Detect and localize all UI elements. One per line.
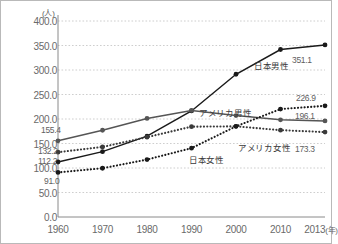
data-point-marker [323, 43, 328, 48]
data-point-marker [323, 130, 328, 135]
data-point-marker [234, 124, 239, 129]
data-point-marker [145, 157, 150, 162]
data-point-marker [100, 166, 105, 171]
value-label-america-male-start: 155.4 [41, 125, 61, 135]
value-label-japan-male-end: 351.1 [292, 55, 312, 65]
value-label-japan-male-start: 112.2 [38, 156, 57, 166]
value-label-america-male-end: 196.1 [295, 111, 315, 121]
data-point-marker [189, 108, 194, 113]
data-point-marker [189, 124, 194, 129]
data-point-marker [278, 128, 283, 133]
value-label-america-female-start: 132.2 [38, 146, 58, 156]
data-point-marker [145, 116, 150, 121]
series-label-japan-female: 日本女性 [189, 153, 224, 165]
value-label-japan-female-end: 226.9 [296, 93, 316, 103]
data-point-marker [100, 145, 105, 150]
value-label-japan-female-start: 91.0 [44, 176, 59, 186]
series-label-japan-male: 日本男性 [254, 59, 289, 71]
data-point-marker [189, 146, 194, 151]
data-point-marker [278, 117, 283, 122]
data-point-marker [145, 135, 150, 140]
value-label-america-female-end: 173.3 [295, 144, 315, 154]
data-point-marker [56, 170, 61, 175]
data-point-marker [234, 72, 239, 77]
data-point-marker [278, 107, 283, 112]
series-label-america-female: アメリカ女性 [238, 141, 290, 153]
data-point-marker [100, 149, 105, 154]
data-point-marker [56, 138, 61, 143]
data-point-marker [323, 103, 328, 108]
data-point-marker [323, 119, 328, 124]
data-point-marker [100, 128, 105, 133]
series-label-america-male: アメリカ男性 [199, 106, 251, 118]
data-point-marker [278, 47, 283, 52]
line-chart-plot [1, 1, 333, 244]
